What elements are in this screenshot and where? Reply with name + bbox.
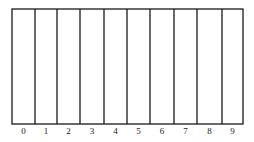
column-label: 8 [207, 126, 212, 136]
column-label: 5 [136, 126, 141, 136]
column-label: 2 [66, 126, 71, 136]
column-label: 4 [113, 126, 118, 136]
column-label: 0 [21, 126, 26, 136]
column-label: 7 [183, 126, 188, 136]
column-label: 3 [90, 126, 95, 136]
column-labels: 0123456789 [21, 126, 235, 136]
column-dividers [35, 9, 222, 124]
column-label: 1 [44, 126, 49, 136]
column-label: 9 [230, 126, 235, 136]
partition-diagram: 0123456789 [0, 0, 254, 142]
column-label: 6 [160, 126, 165, 136]
